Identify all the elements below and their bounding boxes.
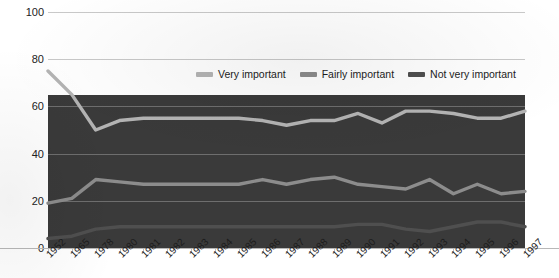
chart-legend: Very important Fairly important Not very… bbox=[196, 68, 516, 80]
chart-series-layer bbox=[0, 0, 559, 278]
legend-swatch-icon bbox=[408, 72, 425, 77]
series-line bbox=[48, 177, 525, 203]
legend-label: Very important bbox=[218, 68, 286, 80]
legend-item-very-important[interactable]: Very important bbox=[196, 68, 286, 80]
legend-item-not-very-important[interactable]: Not very important bbox=[408, 68, 516, 80]
legend-swatch-icon bbox=[300, 72, 317, 77]
line-chart: 020406080100 195219651978198019811982198… bbox=[0, 0, 559, 278]
legend-item-fairly-important[interactable]: Fairly important bbox=[300, 68, 394, 80]
legend-label: Not very important bbox=[430, 68, 516, 80]
legend-swatch-icon bbox=[196, 72, 213, 77]
legend-label: Fairly important bbox=[322, 68, 394, 80]
series-line bbox=[48, 222, 525, 239]
